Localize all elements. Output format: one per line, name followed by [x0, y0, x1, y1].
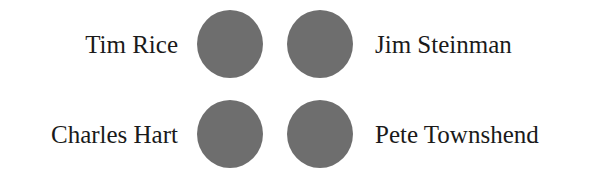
- label-jim-steinman: Jim Steinman: [375, 30, 512, 60]
- label-pete-townshend: Pete Townshend: [375, 120, 539, 150]
- circle-top-left: [197, 10, 263, 78]
- label-tim-rice: Tim Rice: [85, 30, 178, 60]
- circle-bottom-right: [287, 100, 353, 168]
- circle-top-right: [287, 10, 353, 78]
- label-charles-hart: Charles Hart: [51, 120, 178, 150]
- circle-bottom-left: [197, 100, 263, 168]
